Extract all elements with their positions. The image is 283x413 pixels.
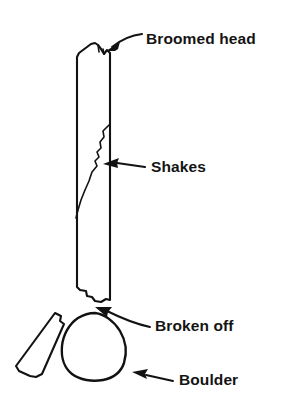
diagram-canvas: Broomed head Shakes Broken off Boulder	[0, 0, 283, 413]
leader-broomed-head	[106, 34, 142, 51]
timber-pile-damage-diagram: Broomed head Shakes Broken off Boulder	[0, 0, 283, 413]
label-shakes: Shakes	[151, 158, 206, 175]
shake-crack-path	[76, 125, 109, 218]
leader-broken-off-line	[107, 311, 150, 327]
timber-post	[77, 43, 110, 302]
leader-boulder-arrowhead	[132, 369, 148, 379]
leader-broken-off	[95, 307, 150, 327]
post-outline	[77, 43, 110, 302]
leader-shakes-line	[117, 163, 145, 167]
boulder-outline	[62, 313, 126, 381]
leader-boulder	[132, 369, 173, 381]
broken-fragment	[16, 313, 64, 377]
boulder-shape	[62, 313, 126, 381]
shake-crack	[76, 125, 109, 218]
leader-boulder-line	[146, 375, 173, 381]
label-broomed-head: Broomed head	[146, 30, 256, 47]
label-broken-off: Broken off	[155, 317, 234, 334]
broken-fragment-outline	[16, 313, 64, 377]
label-boulder: Boulder	[179, 371, 238, 388]
